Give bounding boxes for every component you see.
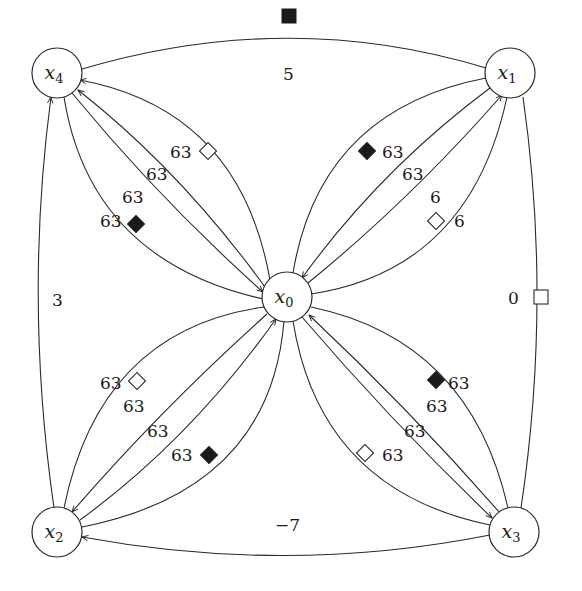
edge-weight-bottom: −7 (275, 515, 300, 535)
node-label: x (45, 520, 56, 542)
edge-weight-right: 0 (508, 288, 519, 308)
edge-weight: 63 (448, 373, 470, 393)
node-label: x (45, 61, 56, 83)
node-x0: x0 (262, 272, 312, 322)
node-subscript: 4 (55, 71, 63, 86)
white-diamond-marker (200, 143, 217, 160)
edge-weight: 63 (402, 164, 424, 184)
node-label: x (502, 520, 513, 542)
node-x4: x4 (32, 48, 82, 98)
edge-x4-x0-c (72, 93, 263, 292)
black-diamond-marker (428, 372, 445, 389)
node-subscript: 2 (55, 530, 63, 545)
edge-x0-x3-d (293, 321, 490, 525)
edge-weight-top: 5 (283, 64, 294, 84)
edge-x0-x2-d (82, 321, 284, 527)
edge-x3-x2 (82, 535, 490, 556)
edge-weight: 63 (123, 396, 145, 416)
white-square-marker (534, 290, 548, 304)
black-square-marker (282, 9, 296, 23)
edge-weight: 63 (146, 164, 168, 184)
edge-weight: 63 (170, 142, 192, 162)
node-x1: x1 (485, 48, 535, 98)
bundle-x0-x1: 63 63 6 6 (293, 78, 507, 294)
edge-weight: 6 (430, 187, 441, 207)
node-x2: x2 (32, 507, 82, 557)
edge-x0-x3-c (302, 317, 492, 518)
edge-x1-x0-b (302, 88, 490, 278)
edge-weight: 63 (122, 187, 144, 207)
edge-weight: 63 (171, 445, 193, 465)
edge-x0-x4-a (80, 80, 270, 280)
edge-x0-x2-a (64, 307, 264, 508)
edge-weight: 6 (454, 211, 465, 231)
black-diamond-marker (128, 216, 145, 233)
graph-svg: 5 0 3 −7 63 63 63 63 63 63 (0, 0, 582, 591)
edge-x3-x0-a (311, 307, 508, 508)
node-label: x (498, 61, 509, 83)
edge-x1-x0-d (311, 97, 507, 294)
edge-x0-x4-b (78, 90, 265, 287)
bundle-x0-x4: 63 63 63 63 (64, 80, 270, 299)
white-diamond-marker (428, 213, 445, 230)
bundle-x0-x2: 63 63 63 63 (64, 307, 284, 527)
bundle-x0-x3: 63 63 63 63 (293, 307, 508, 525)
edge-weight: 63 (147, 421, 169, 441)
node-subscript: 0 (285, 295, 293, 310)
node-subscript: 3 (512, 530, 520, 545)
edge-weight-left: 3 (52, 290, 63, 310)
edge-weight: 63 (382, 445, 404, 465)
node-x3: x3 (489, 507, 539, 557)
edge-weight: 63 (100, 211, 122, 231)
edge-weight: 63 (382, 142, 404, 162)
node-label: x (275, 285, 286, 307)
edge-x0-x2-b (72, 314, 267, 512)
edge-x4-x0-d (64, 97, 263, 299)
black-diamond-marker (359, 143, 376, 160)
edge-weight: 63 (100, 373, 122, 393)
white-diamond-marker (129, 373, 146, 390)
black-diamond-marker (201, 447, 218, 464)
graph-diagram: 5 0 3 −7 63 63 63 63 63 63 (0, 0, 582, 591)
white-diamond-marker (357, 445, 374, 462)
edge-x2-x0-c (80, 319, 276, 520)
edge-weight: 63 (426, 396, 448, 416)
node-subscript: 1 (508, 71, 516, 86)
edge-weight: 63 (404, 421, 426, 441)
